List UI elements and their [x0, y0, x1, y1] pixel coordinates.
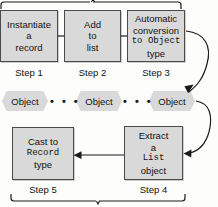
process-box-step4: Extract a List object — [124, 126, 183, 180]
process-box-step2-line-3: list — [87, 42, 99, 54]
process-box-step3: Automatic conversion to Object type — [127, 10, 185, 62]
process-box-step1-line-1: Instantiate — [7, 19, 51, 31]
process-box-step5-line-3: type — [34, 159, 52, 171]
step-label-step2: Step 2 — [64, 67, 121, 78]
process-box-step4-line-1: Extract — [139, 130, 169, 142]
process-box-step3-line-2: conversion — [133, 25, 179, 37]
step-label-step4: Step 4 — [124, 184, 183, 195]
process-box-step1-line-3: record — [16, 42, 43, 54]
bottom-bracket — [11, 194, 185, 201]
process-box-step2-line-1: Add — [84, 19, 101, 31]
process-box-step5-line-1: Cast to — [28, 136, 58, 148]
object-node-2-label: Object — [85, 96, 112, 107]
record-object-conversion-diagram: Instantiate a record Add to list Automat… — [0, 0, 218, 207]
arrowhead-object-to-step4 — [184, 149, 192, 157]
step-label-step5: Step 5 — [12, 184, 74, 195]
process-box-step1-line-2: a — [26, 30, 31, 42]
process-box-step4-line-3: List — [143, 153, 165, 165]
object-node-1: Object — [2, 91, 48, 111]
process-box-step4-line-4: object — [141, 165, 166, 177]
arrow-object-to-step4 — [190, 101, 211, 153]
step-label-step3: Step 3 — [127, 67, 185, 78]
ellipsis-1: • • • — [50, 95, 76, 107]
process-box-step4-line-2: a — [151, 142, 156, 154]
process-box-step3-line-3: to Object — [132, 36, 181, 48]
process-box-step5: Cast to Record type — [12, 127, 74, 180]
process-box-step3-line-4: type — [147, 48, 165, 60]
top-bracket-tick — [92, 0, 95, 2]
bottom-bracket-tick — [97, 201, 100, 204]
arrow-step3-to-object — [186, 31, 209, 92]
object-node-3: Object — [149, 91, 195, 111]
step-label-step1: Step 1 — [0, 67, 58, 78]
object-node-2: Object — [76, 91, 122, 111]
process-box-step2-line-2: to — [89, 30, 97, 42]
process-box-step5-line-2: Record — [27, 148, 59, 160]
ellipsis-2: • • • — [123, 95, 149, 107]
object-node-3-label: Object — [158, 96, 185, 107]
process-box-step2: Add to list — [64, 10, 121, 62]
process-box-step3-line-1: Automatic — [135, 13, 177, 25]
object-node-1-label: Object — [11, 96, 38, 107]
arrowhead-step4-to-step5 — [74, 151, 82, 159]
top-bracket — [1, 2, 181, 9]
process-box-step1: Instantiate a record — [0, 10, 58, 62]
